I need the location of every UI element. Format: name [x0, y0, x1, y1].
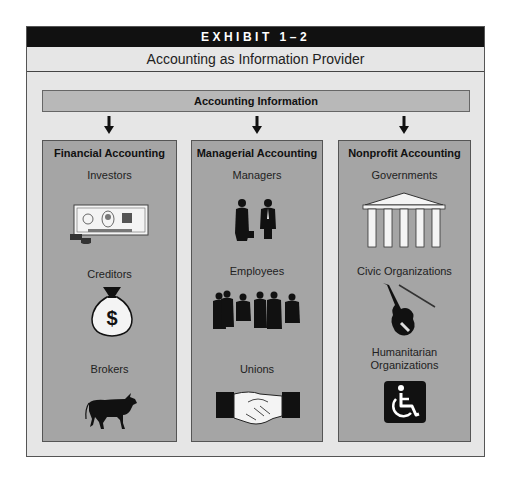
money-bag-icon: $	[89, 285, 135, 339]
two-businesspeople-icon	[232, 197, 282, 241]
item-label-humanitarian-organizations: Humanitarian Organizations	[339, 346, 470, 372]
item-label-governments: Governments	[339, 169, 470, 182]
exhibit-frame: EXHIBIT 1–2 Accounting as Information Pr…	[26, 26, 485, 457]
financial-accounting-column: Financial Accounting Investors Creditors…	[42, 140, 177, 442]
exhibit-label: EXHIBIT 1–2	[27, 27, 484, 47]
item-label-brokers: Brokers	[43, 363, 176, 376]
exhibit-title: Accounting as Information Provider	[27, 47, 484, 72]
violin-icon	[377, 281, 441, 339]
managerial-accounting-column: Managerial Accounting Managers Employees…	[191, 140, 323, 442]
bull-icon	[83, 389, 139, 431]
down-arrow-icon	[104, 116, 114, 134]
government-building-icon	[361, 191, 447, 249]
item-label-employees: Employees	[192, 265, 322, 278]
down-arrow-icon	[252, 116, 262, 134]
item-label-creditors: Creditors	[43, 268, 176, 281]
nonprofit-accounting-column: Nonprofit Accounting Governments Civic O…	[338, 140, 471, 442]
item-label-managers: Managers	[192, 169, 322, 182]
currency-bill-icon	[68, 203, 150, 247]
group-of-employees-icon	[210, 289, 306, 331]
handshake-icon	[216, 388, 300, 426]
column-title: Nonprofit Accounting	[339, 147, 470, 159]
item-label-investors: Investors	[43, 169, 176, 182]
svg-text:$: $	[106, 307, 117, 329]
down-arrow-icon	[399, 116, 409, 134]
wheelchair-accessibility-icon	[384, 381, 426, 423]
column-title: Managerial Accounting	[192, 147, 322, 159]
column-title: Financial Accounting	[43, 147, 176, 159]
accounting-information-box: Accounting Information	[42, 90, 470, 112]
item-label-unions: Unions	[192, 363, 322, 376]
item-label-civic-organizations: Civic Organizations	[339, 265, 470, 278]
